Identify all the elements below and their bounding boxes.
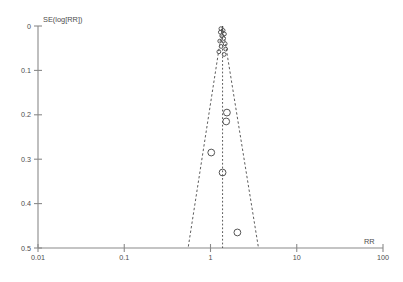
funnel-plot-canvas: 00.10.20.30.40.5 SE(log[RR]) 0.010.11101… (0, 0, 403, 282)
study-point-marker (223, 118, 230, 125)
funnel-line-left (188, 26, 222, 248)
study-point-marker (224, 109, 231, 116)
x-tick-label: 0.1 (119, 253, 129, 262)
y-tick-label: 0.1 (21, 66, 31, 75)
x-axis-ticks: 0.010.1110100 (31, 244, 389, 262)
funnel-confidence-lines (188, 26, 258, 248)
x-axis-group: 0.010.1110100 RR (31, 237, 389, 262)
funnel-plot-figure: 00.10.20.30.40.5 SE(log[RR]) 0.010.11101… (0, 0, 403, 282)
y-tick-label: 0 (27, 22, 31, 31)
x-tick-label: 0.01 (31, 253, 45, 262)
study-point-marker (222, 53, 226, 57)
study-points-group (208, 27, 241, 236)
y-axis-group: 00.10.20.30.40.5 SE(log[RR]) (21, 15, 82, 253)
y-tick-label: 0.5 (21, 244, 31, 253)
y-tick-label: 0.4 (21, 199, 31, 208)
y-axis-ticks: 00.10.20.30.40.5 (21, 22, 42, 253)
study-point-marker (224, 47, 228, 51)
funnel-line-right (223, 26, 259, 248)
y-axis-title: SE(log[RR]) (43, 15, 82, 24)
x-axis-title: RR (364, 237, 375, 246)
y-tick-label: 0.2 (21, 110, 31, 119)
x-tick-label: 1 (209, 253, 213, 262)
study-point-marker (218, 39, 222, 43)
x-tick-label: 100 (377, 253, 389, 262)
study-point-marker (223, 42, 227, 46)
x-tick-label: 10 (293, 253, 301, 262)
study-point-marker (234, 229, 241, 236)
study-point-marker (208, 149, 215, 156)
y-tick-label: 0.3 (21, 155, 31, 164)
